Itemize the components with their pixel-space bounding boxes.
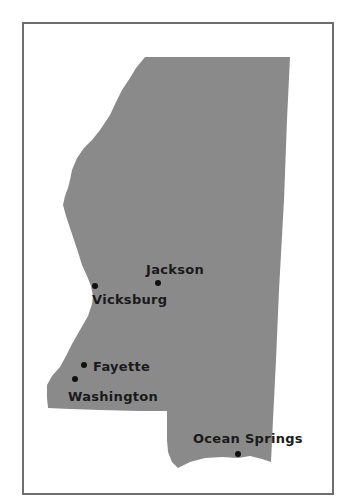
city-label: Vicksburg	[92, 293, 167, 306]
city-label: Ocean Springs	[193, 432, 303, 445]
state-map	[0, 0, 343, 504]
city-dot-icon	[155, 280, 161, 286]
city-dot-icon	[81, 362, 87, 368]
city-dot-icon	[72, 376, 78, 382]
city-dot-icon	[92, 283, 98, 289]
city-label: Fayette	[93, 360, 150, 373]
city-dot-icon	[235, 451, 241, 457]
city-label: Washington	[68, 390, 158, 403]
city-label: Jackson	[146, 263, 204, 276]
